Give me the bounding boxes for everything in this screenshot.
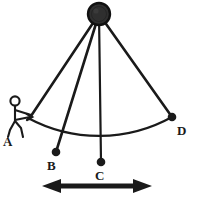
point-label-D: D (177, 124, 186, 137)
marker-C (97, 158, 106, 167)
cord-to-D (99, 14, 172, 117)
arrow-shaft (56, 184, 138, 189)
pivot-bob (88, 3, 110, 25)
marker-B (52, 148, 61, 157)
arrow-head-right (133, 179, 152, 193)
cord-group (29, 14, 172, 162)
marker-D (168, 113, 177, 122)
cord-to-A (29, 14, 99, 119)
point-markers (52, 113, 177, 167)
point-label-A: A (3, 135, 12, 148)
pendulum-figure: A B C D (0, 0, 197, 199)
arrow-head-left (42, 179, 61, 193)
stick-figure-observer (8, 96, 32, 137)
observer-leg-right (15, 121, 23, 137)
point-label-C: C (95, 169, 104, 182)
point-label-B: B (47, 159, 56, 172)
observer-head-icon (10, 96, 19, 105)
cord-to-C (99, 14, 101, 162)
